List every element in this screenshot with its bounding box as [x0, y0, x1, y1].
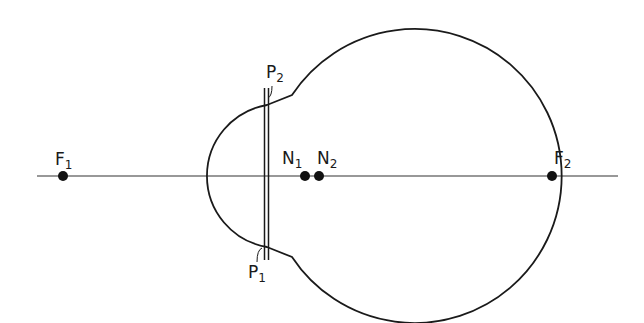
- f2-point: [547, 171, 557, 181]
- f1-label: F1: [55, 149, 72, 172]
- eye-diagram: F1 N1 N2 F2 P2 P1: [0, 0, 644, 323]
- n2-point: [314, 171, 324, 181]
- p2-label: P2: [266, 62, 284, 85]
- n2-label: N2: [317, 148, 337, 171]
- f2-label: F2: [554, 148, 571, 171]
- p1-label: P1: [248, 262, 266, 285]
- p1-leader: [257, 248, 262, 262]
- f1-point: [58, 171, 68, 181]
- n1-label: N1: [282, 148, 302, 171]
- n1-point: [300, 171, 310, 181]
